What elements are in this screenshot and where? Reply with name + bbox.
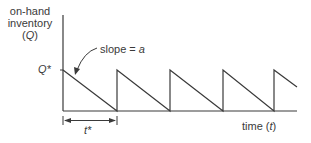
y-axis-label: on-hand inventory (Q) [4,5,56,41]
t-star-label: t* [84,124,91,136]
x-axis-label: time (t) [242,120,276,132]
slope-arrowhead-icon [74,67,80,75]
y-axis-label-line3: (Q) [4,29,56,41]
y-axis-label-line2: inventory [4,17,56,29]
slope-label: slope = a [100,43,145,55]
q-star-label: Q* [38,63,51,75]
y-axis-label-line1: on-hand [4,5,56,17]
t-star-left-arrowhead-icon [64,118,71,123]
t-star-right-arrowhead-icon [109,118,116,123]
inventory-sawtooth-line [63,70,297,111]
slope-arrow [77,48,97,70]
